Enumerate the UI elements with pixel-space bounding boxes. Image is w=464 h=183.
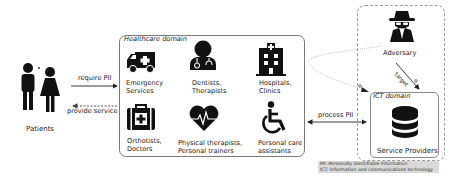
ambulance-icon <box>125 50 157 74</box>
abbreviation-legend: PII: Personally Identifiable Information… <box>318 161 439 173</box>
service-providers-label: Service Providers <box>377 148 438 156</box>
database-icon <box>391 106 419 138</box>
personal-care-label-2: assistants <box>258 148 291 156</box>
dentists-label-2: Therapists <box>192 88 227 96</box>
physical-label-2: Personal trainers <box>178 148 234 156</box>
adversary-label: Adversary <box>383 50 416 58</box>
require-label: require PII <box>78 75 111 83</box>
patients-label: Patients <box>26 125 54 133</box>
emergency-label-2: Services <box>126 88 154 96</box>
heartbeat-icon <box>188 104 220 132</box>
medical-kit-icon <box>126 103 156 131</box>
process-label: process PII <box>318 112 353 120</box>
patients-actor: Patients <box>18 62 66 122</box>
legend-ict: ICT: Information and communications tech… <box>320 167 439 173</box>
hospitals-label-2: Clinics <box>259 88 280 96</box>
patients-icon <box>18 62 66 114</box>
healthcare-domain-title: Healthcare domain <box>124 36 187 44</box>
orthotists-label-2: Doctors <box>127 146 153 154</box>
hospital-icon <box>256 40 286 76</box>
wheelchair-icon <box>262 101 292 135</box>
provide-label: provide service <box>67 108 117 116</box>
ict-domain-title: ICT domain <box>373 93 410 101</box>
spy-icon <box>387 9 417 43</box>
doctor-icon <box>188 40 218 72</box>
